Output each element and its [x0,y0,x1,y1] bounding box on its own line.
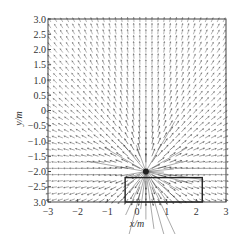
y-tick-label: −0.5 [28,120,46,131]
y-tick-label: −1.5 [28,151,46,162]
y-tick-label: 0.5 [34,90,47,101]
y-tick-label: 1.0 [34,75,47,86]
source-point [143,169,149,175]
y-tick-label: −2.5 [28,181,46,192]
x-tick-label: −3 [43,206,54,217]
x-tick-label: 1 [164,206,169,217]
x-tick-label: 2 [194,206,199,217]
x-tick-label: 3 [224,206,229,217]
x-tick-label: 0 [135,206,140,217]
y-tick-label: 2.0 [34,44,47,55]
y-tick-label: 2.5 [34,29,47,40]
y-tick-label: 1.5 [34,59,47,70]
x-axis-label: x/m [129,218,144,229]
y-axis-label: y/m [13,111,24,126]
quiver-chart: −3−2−10123 3.02.52.01.51.00.50−0.5−1.0−1… [0,0,238,234]
y-tick-label: −1.0 [28,136,46,147]
x-tick-label: −2 [72,206,83,217]
y-tick-label: 3.0 [34,197,47,208]
y-tick-label: 3.0 [34,14,47,25]
x-tick-label: −1 [102,206,113,217]
y-tick-label: 0 [41,105,46,116]
y-tick-label: −2.0 [28,166,46,177]
